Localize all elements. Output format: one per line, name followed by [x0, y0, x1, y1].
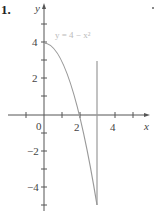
y-tick-label-2: 2 [32, 72, 38, 84]
x-axis-label: x [143, 120, 149, 132]
plot-area: y x y = 4 − x² 0 2 4 4 2 −2 −4 [0, 0, 155, 211]
y-tick-label-4: 4 [32, 36, 38, 48]
x-arrow-icon [144, 113, 150, 117]
x-tick-label-4: 4 [110, 121, 116, 133]
curve-label: y = 4 − x² [55, 30, 91, 40]
y-arrow-icon [42, 3, 46, 9]
x-tick-label-2: 2 [74, 121, 80, 133]
y-tick-label-neg4: −4 [27, 181, 39, 193]
curve-parabola [44, 43, 97, 205]
y-tick-label-neg2: −2 [27, 145, 39, 157]
y-axis-label: y [34, 2, 40, 14]
origin-label: 0 [36, 120, 42, 132]
